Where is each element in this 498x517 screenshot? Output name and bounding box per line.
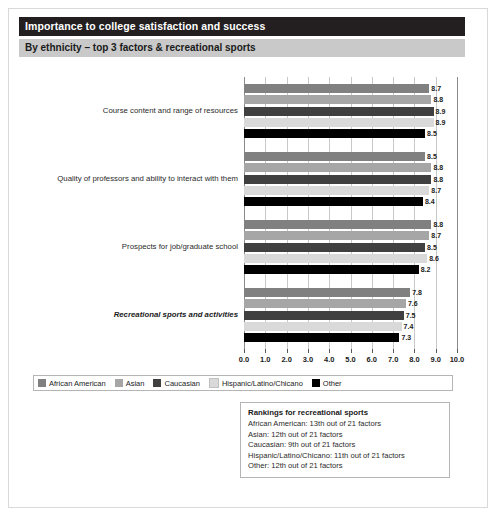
chart-legend: African AmericanAsianCaucasianHispanic/L… [33, 375, 453, 391]
bar [244, 84, 429, 93]
bar [244, 163, 431, 172]
rankings-lines: African American: 13th out of 21 factors… [248, 419, 443, 472]
bar [244, 152, 425, 161]
axis-tick-label: 5.0 [345, 355, 355, 364]
axis-tick [329, 349, 330, 353]
axis-tick [308, 349, 309, 353]
bar [244, 231, 429, 240]
legend-label: Asian [126, 379, 145, 388]
axis-tick-label: 1.0 [260, 355, 270, 364]
axis-tick [244, 349, 245, 353]
legend-swatch [38, 379, 46, 387]
bar-value-label: 7.4 [404, 322, 414, 329]
bar [244, 118, 434, 127]
axis-tick-label: 2.0 [281, 355, 291, 364]
ranking-line: Asian: 12th out of 21 factors [248, 430, 443, 441]
bar [244, 243, 425, 252]
plot-area: 0.01.02.03.04.05.06.07.08.09.010.0Course… [244, 77, 457, 349]
bar [244, 299, 406, 308]
category-label: Quality of professors and ability to int… [23, 174, 238, 183]
category-label: Course content and range of resources [23, 106, 238, 115]
axis-tick [287, 349, 288, 353]
legend-label: Caucasian [164, 379, 199, 388]
bar [244, 186, 429, 195]
bar [244, 175, 431, 184]
category-label: Prospects for job/graduate school [23, 242, 238, 251]
bar [244, 254, 427, 263]
bar-value-label: 7.3 [401, 333, 411, 340]
legend-label: Hispanic/Latino/Chicano [222, 379, 303, 388]
bar [244, 197, 423, 206]
bar-value-label: 8.7 [431, 85, 441, 92]
ranking-line: Hispanic/Latino/Chicano: 11th out of 21 … [248, 451, 443, 462]
bar [244, 333, 399, 342]
axis-tick-label: 9.0 [430, 355, 440, 364]
bar-value-label: 8.8 [433, 164, 443, 171]
axis-tick-label: 8.0 [409, 355, 419, 364]
axis-tick [414, 349, 415, 353]
legend-label: Other [323, 379, 342, 388]
axis-tick-label: 10.0 [450, 355, 465, 364]
bar [244, 95, 431, 104]
legend-swatch [312, 379, 320, 387]
bar-value-label: 8.7 [431, 232, 441, 239]
legend-item: Caucasian [153, 379, 199, 388]
legend-swatch [115, 379, 123, 387]
bar-value-label: 8.8 [433, 96, 443, 103]
rankings-title: Rankings for recreational sports [248, 408, 443, 417]
axis-tick [265, 349, 266, 353]
bar [244, 107, 434, 116]
bar-value-label: 7.6 [408, 300, 418, 307]
legend-swatch [209, 378, 219, 388]
ranking-line: African American: 13th out of 21 factors [248, 419, 443, 430]
axis-tick [436, 349, 437, 353]
bar [244, 265, 419, 274]
axis-tick-label: 0.0 [239, 355, 249, 364]
legend-item: Other [312, 379, 342, 388]
bar-value-label: 7.8 [412, 289, 422, 296]
axis-tick-label: 7.0 [388, 355, 398, 364]
legend-item: Asian [115, 379, 145, 388]
axis-tick-label: 6.0 [367, 355, 377, 364]
legend-item: African American [38, 379, 106, 388]
chart-card: Importance to college satisfaction and s… [8, 8, 488, 508]
axis-tick [372, 349, 373, 353]
legend-label: African American [49, 379, 106, 388]
bar [244, 288, 410, 297]
bar-value-label: 8.6 [429, 254, 439, 261]
ranking-line: Other: 12th out of 21 factors [248, 461, 443, 472]
bar-value-label: 8.8 [433, 221, 443, 228]
axis-tick-label: 3.0 [303, 355, 313, 364]
bar-value-label: 8.5 [427, 129, 437, 136]
bar [244, 311, 404, 320]
bar-value-label: 8.5 [427, 153, 437, 160]
bar [244, 322, 402, 331]
bar [244, 129, 425, 138]
chart-subtitle: By ethnicity – top 3 factors & recreatio… [19, 39, 465, 57]
bar-value-label: 8.5 [427, 243, 437, 250]
chart-plot: 0.01.02.03.04.05.06.07.08.09.010.0Course… [19, 69, 465, 354]
bar-value-label: 8.2 [421, 265, 431, 272]
chart-title: Importance to college satisfaction and s… [19, 17, 465, 36]
bar-value-label: 8.7 [431, 186, 441, 193]
gridline [457, 77, 458, 349]
rankings-box: Rankings for recreational sports African… [240, 402, 450, 478]
bar [244, 220, 431, 229]
ranking-line: Caucasian: 9th out of 21 factors [248, 440, 443, 451]
legend-item: Hispanic/Latino/Chicano [209, 378, 303, 388]
category-label: Recreational sports and activities [23, 310, 238, 319]
axis-tick [351, 349, 352, 353]
bar-value-label: 8.8 [433, 175, 443, 182]
bar-value-label: 8.4 [425, 197, 435, 204]
bar-value-label: 7.5 [406, 311, 416, 318]
bar-value-label: 8.9 [436, 107, 446, 114]
axis-tick-label: 4.0 [324, 355, 334, 364]
legend-swatch [153, 379, 161, 387]
bar-value-label: 8.9 [436, 118, 446, 125]
axis-tick [457, 349, 458, 353]
axis-tick [393, 349, 394, 353]
